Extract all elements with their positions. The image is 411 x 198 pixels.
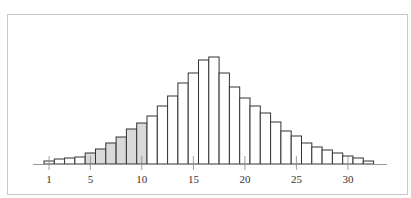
- histogram-bar: [240, 98, 250, 164]
- histogram-bar: [353, 158, 363, 164]
- x-tick-label: 1: [46, 173, 52, 185]
- histogram-bar: [199, 60, 209, 164]
- x-tick-label: 10: [136, 173, 148, 185]
- histogram-bar: [312, 147, 322, 164]
- histogram-bar: [54, 159, 64, 164]
- histogram-bar: [250, 106, 260, 164]
- x-axis-tick-labels: 151015202530: [46, 173, 354, 185]
- histogram-bar: [116, 137, 126, 164]
- histogram-bar: [219, 73, 229, 164]
- histogram-bar: [157, 106, 167, 164]
- x-tick-label: 20: [239, 173, 251, 185]
- histogram-bar: [363, 161, 373, 164]
- histogram-bar: [75, 157, 85, 164]
- histogram-bar: [147, 116, 157, 164]
- x-tick-label: 30: [342, 173, 354, 185]
- histogram-bar: [229, 87, 239, 164]
- x-tick-label: 15: [188, 173, 200, 185]
- bars-group: [44, 57, 374, 164]
- x-tick-label: 5: [88, 173, 94, 185]
- histogram-bar: [126, 129, 136, 164]
- x-tick-label: 25: [291, 173, 303, 185]
- histogram-bar: [178, 83, 188, 164]
- histogram-bar: [281, 131, 291, 164]
- histogram-bar: [65, 158, 75, 164]
- histogram-bar: [260, 113, 270, 164]
- histogram-bar: [302, 143, 312, 164]
- histogram-bar: [332, 153, 342, 164]
- histogram-bar: [168, 96, 178, 164]
- histogram-chart: 151015202530: [0, 0, 411, 198]
- histogram-bar: [96, 149, 106, 164]
- histogram-bar: [322, 150, 332, 164]
- histogram-bar: [188, 73, 198, 164]
- histogram-bar: [271, 122, 281, 164]
- histogram-bar: [209, 57, 219, 164]
- histogram-bar: [106, 143, 116, 164]
